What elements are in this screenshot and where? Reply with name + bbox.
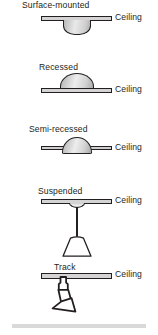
surface-mounted-fixture-body [63,20,91,35]
ceiling-bar-recessed [41,88,112,93]
fixture-recessed: Recessed Ceiling [0,62,158,110]
ceiling-label-semi-recessed: Ceiling [115,142,142,152]
ceiling-label-surface-mounted: Ceiling [115,12,142,22]
lighting-mount-types-diagram: Surface-mounted Ceiling Recessed Ceiling… [0,0,158,335]
fixture-surface-mounted: Surface-mounted Ceiling [0,0,158,48]
semi-recessed-fixture-body [62,137,92,154]
fixture-suspended: Suspended Ceiling [0,186,158,254]
ceiling-label-recessed: Ceiling [115,84,142,94]
fixture-track: Track Ceiling [0,262,158,322]
ceiling-bar-semi-recessed-right [89,146,112,150]
suspended-pendant-shade [59,236,95,258]
fixture-label-surface-mounted: Surface-mounted [22,0,89,10]
fixture-label-suspended: Suspended [38,186,82,196]
suspended-stem [76,207,78,238]
fixture-label-track: Track [54,262,76,272]
floor-strip [12,324,146,328]
fixture-label-semi-recessed: Semi-recessed [29,124,88,134]
ceiling-label-suspended: Ceiling [115,195,142,205]
track-spotlight-head [42,277,104,323]
fixture-semi-recessed: Semi-recessed Ceiling [0,124,158,172]
fixture-label-recessed: Recessed [39,62,78,72]
ceiling-label-track: Ceiling [115,269,142,279]
